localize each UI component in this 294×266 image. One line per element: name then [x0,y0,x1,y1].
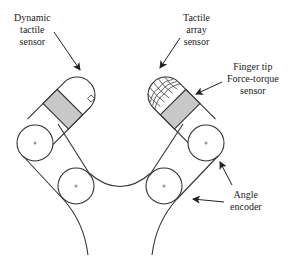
label-angle-encoder: Angle encoder [230,189,262,213]
arrow-force-torque [196,82,222,94]
label-line: Finger tip [227,61,279,73]
label-line: encoder [230,201,262,213]
arrow-angle-encoder-upper [220,162,232,185]
label-line: Force-torque [227,73,279,85]
left-base-curve [63,199,88,255]
right-base-curve [152,199,177,255]
label-line: sensor [14,36,51,48]
arrow-dynamic-tactile [54,32,80,70]
right-finger [141,70,224,204]
label-line: sensor [227,85,279,97]
left-finger [17,70,102,204]
label-line: array [183,24,210,36]
palm-arc [89,173,151,187]
label-line: Dynamic [14,12,51,24]
label-force-torque-sensor: Finger tip Force-torque sensor [227,61,279,97]
arrow-tactile-array [160,38,180,68]
label-dynamic-tactile-sensor: Dynamic tactile sensor [14,12,51,48]
label-tactile-array-sensor: Tactile array sensor [183,12,210,48]
label-line: sensor [183,36,210,48]
label-line: Angle [230,189,262,201]
arrow-angle-encoder-lower [193,199,224,202]
label-line: tactile [14,24,51,36]
label-line: Tactile [183,12,210,24]
